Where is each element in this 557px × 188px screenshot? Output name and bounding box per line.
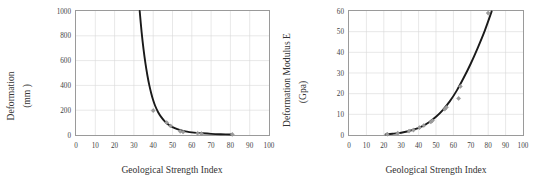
y-tick-label: 20 <box>337 90 345 98</box>
x-tick-label: 50 <box>432 142 440 150</box>
y-tick-label: 30 <box>337 70 345 78</box>
series-group-left <box>140 11 235 136</box>
x-tick-label: 90 <box>246 142 254 150</box>
y-tick-label: 40 <box>337 49 345 57</box>
x-axis-title-left: Geological Strength Index <box>121 164 222 175</box>
data-point-marker <box>396 131 400 135</box>
y-tick-labels-left: 02004006008001000 <box>57 8 72 140</box>
y-axis-title-line2: (Gpa) <box>297 81 309 103</box>
y-tick-label: 400 <box>60 82 71 90</box>
series-line <box>140 11 233 135</box>
x-tick-label: 70 <box>467 142 475 150</box>
y-tick-label: 200 <box>60 107 71 115</box>
data-point-marker <box>407 129 411 133</box>
data-point-marker <box>457 96 461 100</box>
x-tick-label: 70 <box>208 142 216 150</box>
x-tick-label: 100 <box>264 142 275 150</box>
x-tick-label: 50 <box>169 142 177 150</box>
y-axis-title-left: Deformation (mm ) <box>5 71 33 120</box>
y-axis-title-right: Deformation Modulus E (Gpa) <box>281 33 309 127</box>
x-tick-label: 20 <box>111 142 119 150</box>
data-point-marker <box>195 131 199 135</box>
x-tick-label: 10 <box>363 142 371 150</box>
deformation-chart-svg: Deformation (mm ) 02004006008001000 0102… <box>0 0 278 188</box>
y-tick-labels-right: 0102030405060 <box>337 8 345 140</box>
x-tick-label: 20 <box>380 142 388 150</box>
x-tick-label: 0 <box>347 142 351 150</box>
y-tick-label: 800 <box>60 32 71 40</box>
x-tick-label: 40 <box>415 142 423 150</box>
x-tick-label: 30 <box>130 142 138 150</box>
gridlines-left <box>76 11 269 135</box>
x-tick-label: 80 <box>485 142 493 150</box>
y-tick-label: 10 <box>337 111 345 119</box>
y-tick-label: 600 <box>60 57 71 65</box>
y-tick-label: 0 <box>67 132 71 140</box>
x-tick-label: 30 <box>398 142 406 150</box>
y-tick-label: 50 <box>337 28 345 36</box>
y-tick-label: 0 <box>340 132 344 140</box>
x-tick-label: 100 <box>518 142 529 150</box>
y-axis-title-line1: Deformation <box>5 71 16 120</box>
x-tick-label: 10 <box>92 142 100 150</box>
y-tick-label: 1000 <box>57 8 72 16</box>
chart-panel-modulus: Deformation Modulus E (Gpa) 010203040506… <box>278 0 557 188</box>
x-tick-label: 0 <box>74 142 78 150</box>
x-axis-title-right: Geological Strength Index <box>385 164 486 175</box>
x-tick-labels-left: 0102030405060708090100 <box>74 142 275 150</box>
data-point-marker <box>151 108 155 112</box>
x-tick-label: 60 <box>188 142 196 150</box>
dual-chart-figure: Deformation (mm ) 02004006008001000 0102… <box>0 0 557 188</box>
x-tick-label: 60 <box>450 142 458 150</box>
x-tick-labels-right: 0102030405060708090100 <box>347 142 529 150</box>
x-tick-label: 40 <box>150 142 158 150</box>
modulus-chart-svg: Deformation Modulus E (Gpa) 010203040506… <box>278 0 557 188</box>
x-tick-label: 90 <box>502 142 510 150</box>
y-axis-title-line2: (mm ) <box>21 84 33 108</box>
y-axis-title-line1: Deformation Modulus E <box>281 33 292 127</box>
chart-panel-deformation: Deformation (mm ) 02004006008001000 0102… <box>0 0 278 188</box>
x-tick-label: 80 <box>227 142 235 150</box>
y-tick-label: 60 <box>337 8 345 16</box>
